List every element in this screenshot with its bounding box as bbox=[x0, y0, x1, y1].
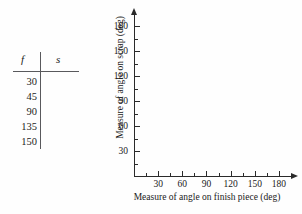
coordinate-plot: 306090120150180 306090120150180 Measure … bbox=[96, 6, 302, 214]
y-tick-label: 30 bbox=[98, 146, 128, 156]
x-tick-minor bbox=[146, 173, 147, 176]
y-tick-major bbox=[135, 76, 140, 77]
y-tick-minor bbox=[135, 114, 138, 115]
x-tick-major bbox=[158, 171, 159, 176]
y-tick-minor bbox=[135, 89, 138, 90]
table-row bbox=[43, 134, 77, 149]
x-tick-minor bbox=[267, 173, 268, 176]
x-tick-minor bbox=[170, 173, 171, 176]
x-tick-major bbox=[255, 171, 256, 176]
data-table: f s 30 45 90 135 150 bbox=[12, 50, 80, 150]
y-tick-minor bbox=[135, 139, 138, 140]
x-tick-major bbox=[279, 171, 280, 176]
table-header-f: f bbox=[21, 52, 24, 66]
y-axis-arrow-icon bbox=[131, 8, 137, 15]
table-column-s bbox=[43, 74, 77, 149]
y-tick-major bbox=[135, 101, 140, 102]
x-tick-major bbox=[206, 171, 207, 176]
table-row bbox=[43, 74, 77, 89]
x-tick-minor bbox=[219, 173, 220, 176]
x-axis-line bbox=[134, 176, 292, 177]
y-tick-minor bbox=[135, 164, 138, 165]
table-column-f: 30 45 90 135 150 bbox=[12, 74, 37, 149]
table-row bbox=[43, 119, 77, 134]
table-header-s: s bbox=[56, 52, 60, 66]
table-row: 45 bbox=[12, 89, 37, 104]
y-tick-major bbox=[135, 26, 140, 27]
table-row bbox=[43, 104, 77, 119]
y-tick-major bbox=[135, 151, 140, 152]
x-tick-major bbox=[231, 171, 232, 176]
y-tick-major bbox=[135, 126, 140, 127]
table-column-divider bbox=[40, 52, 41, 149]
x-tick-minor bbox=[243, 173, 244, 176]
table-row: 30 bbox=[12, 74, 37, 89]
y-tick-major bbox=[135, 51, 140, 52]
figure-root: f s 30 45 90 135 150 306090120150180 306… bbox=[0, 0, 302, 214]
table-row: 135 bbox=[12, 119, 37, 134]
table-row: 150 bbox=[12, 134, 37, 149]
table-header-rule bbox=[13, 71, 79, 72]
x-tick-minor bbox=[194, 173, 195, 176]
y-tick-minor bbox=[135, 39, 138, 40]
x-axis-title: Measure of angle on finish piece (deg) bbox=[120, 192, 294, 203]
y-axis-title: Measure of angle on scrap (deg) bbox=[115, 10, 126, 146]
y-tick-minor bbox=[135, 64, 138, 65]
table-row bbox=[43, 89, 77, 104]
table-row: 90 bbox=[12, 104, 37, 119]
x-tick-label: 180 bbox=[264, 179, 294, 189]
x-tick-major bbox=[182, 171, 183, 176]
